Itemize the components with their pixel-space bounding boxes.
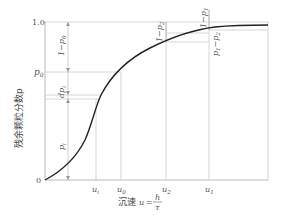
tick-label-u0: u0 [117,185,126,195]
tick-label-0: 0 [36,176,41,185]
x-axis-frac-num: h [155,193,160,202]
arrow-head [66,68,70,72]
tick-label-ui: ui [92,185,99,195]
y-axis-title: 残余颗粒分数p [13,88,24,148]
label-1-p1: 1−p1 [199,8,209,28]
label-pi: pi [57,143,67,150]
tick-label-p0: p0 [34,67,44,78]
arrow-head [66,91,70,95]
label-1-p2: 1−p2 [155,21,165,42]
x-axis-title-var: u [139,198,144,207]
arrow-head [66,176,70,180]
arrow-head [66,99,70,103]
settling-curve [45,25,268,180]
label-dpi: dpi [57,86,67,98]
tick-label-u2: u2 [162,185,171,195]
settling-curve-diagram: 1.0 p0 0 残余颗粒分数p 1−p0 dpi pi 1−p2 1−p1 p… [0,0,281,217]
tick-label-1: 1.0 [32,18,45,27]
label-1-p0: 1−p0 [57,35,67,56]
x-axis-frac-den: τ [155,203,160,212]
label-p1-p2: p1−p2 [211,32,221,56]
tick-label-u1: u1 [205,185,214,195]
arrow-head [66,22,70,26]
x-axis-title-eq: = [146,198,153,207]
x-axis-title-prefix: 沉速 [118,197,136,207]
